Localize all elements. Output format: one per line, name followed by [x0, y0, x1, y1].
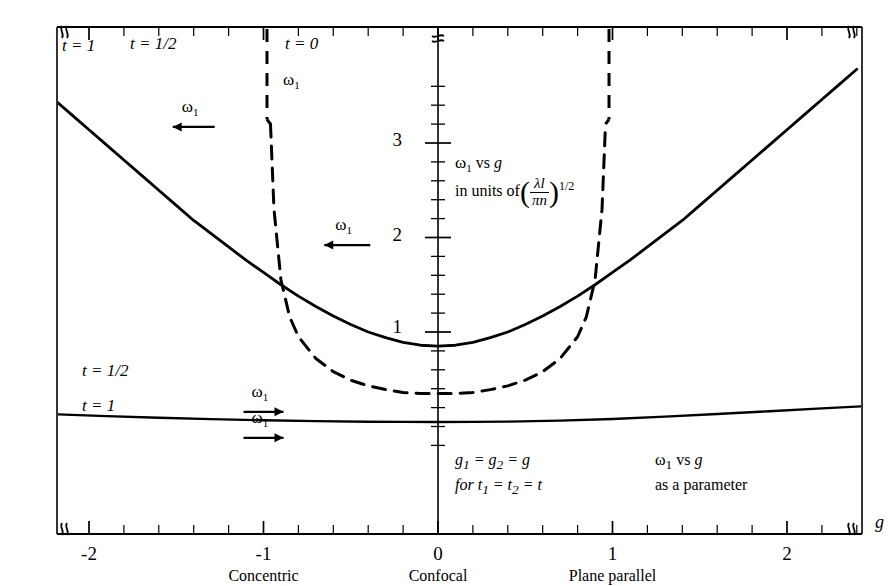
y-tick-label-1: 1: [393, 316, 403, 338]
units-exponent: 1/2: [559, 179, 574, 193]
category-label-plane-parallel: Plane parallel: [569, 567, 657, 585]
close-paren: ): [549, 175, 559, 208]
parameter-line-1: ω1 vs g: [655, 449, 747, 474]
condition-annotation: g1 = g2 = g for t1 = t2 = t: [455, 449, 542, 499]
condition-line-2: for t1 = t2 = t: [455, 474, 542, 499]
curve-label-t-equals-half: t = 1/2: [130, 34, 176, 54]
omega-label-upper-left: ω1: [182, 97, 199, 118]
parameter-line-2: as a parameter: [655, 474, 747, 496]
chart-figure: 1 2 3 -2 -1 0 1 2 g Concentric Confocal …: [0, 0, 894, 586]
category-label-concentric: Concentric: [228, 567, 298, 585]
condition-line-1: g1 = g2 = g: [455, 449, 542, 474]
x-tick-label-minus1: -1: [256, 543, 272, 565]
curve-label-t-equals-0: t = 0: [285, 34, 318, 54]
curve-label-lower-t-equals-1: t = 1: [82, 396, 115, 416]
x-axis-label: g: [875, 512, 884, 533]
omega-label-lower-one: ω1: [252, 408, 269, 429]
units-in-units-of: in units of: [455, 182, 520, 199]
omega-label-dashed-mid: ω1: [335, 215, 352, 236]
x-tick-label-minus2: -2: [81, 543, 97, 565]
y-tick-label-2: 2: [393, 224, 403, 246]
curve-label-lower-t-equals-half: t = 1/2: [82, 361, 128, 381]
fraction-denominator: πn: [530, 193, 549, 209]
fraction-numerator: λl: [530, 176, 549, 193]
curve-label-t-equals-1-upper: t = 1: [62, 36, 95, 56]
y-tick-label-3: 3: [393, 129, 403, 151]
x-tick-label-one: 1: [608, 543, 618, 565]
units-vs-g: vs g: [476, 154, 502, 171]
omega-symbol-units: ω1: [455, 153, 472, 172]
parameter-annotation: ω1 vs g as a parameter: [655, 449, 747, 496]
open-paren: (: [520, 175, 530, 208]
units-fraction: λlπn: [530, 176, 549, 209]
data-curves: [0, 29, 894, 422]
x-tick-label-zero: 0: [433, 543, 443, 565]
units-line-1: ω1 vs g: [455, 152, 574, 176]
category-label-confocal: Confocal: [409, 567, 468, 585]
plot-canvas: [0, 0, 894, 586]
units-line-2: in units of(λlπn)1/2: [455, 176, 574, 209]
units-annotation: ω1 vs g in units of(λlπn)1/2: [455, 152, 574, 209]
x-tick-label-two: 2: [782, 543, 792, 565]
omega-label-lower-half: ω1: [252, 382, 269, 403]
omega-label-dashed-top: ω1: [283, 70, 300, 91]
